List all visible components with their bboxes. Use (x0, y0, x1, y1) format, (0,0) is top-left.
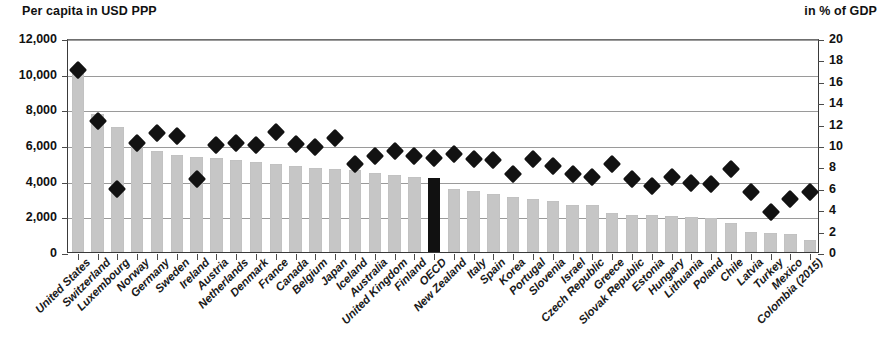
right-axis-tick (818, 254, 824, 255)
bar (527, 199, 539, 252)
left-axis-tick-label: 0 (50, 247, 57, 260)
right-axis-tick (818, 104, 824, 105)
right-axis-tick-label: 18 (829, 54, 843, 67)
left-axis-tick (62, 254, 68, 255)
right-axis-tick-label: 14 (829, 97, 843, 110)
left-axis-caption: Per capita in USD PPP (22, 4, 157, 18)
bar (210, 158, 222, 252)
bar (428, 178, 440, 252)
bar (250, 162, 262, 252)
right-axis-tick (818, 147, 824, 148)
right-axis-tick (818, 61, 824, 62)
left-axis-tick-label: 2,000 (26, 211, 57, 224)
category-labels: United StatesSwitzerlandLuxembourgNorway… (67, 256, 819, 357)
left-axis-tick-label: 12,000 (19, 33, 57, 46)
bar (566, 205, 578, 252)
bar (547, 201, 559, 252)
right-axis-tick-label: 10 (829, 140, 843, 153)
right-axis-tick (818, 211, 824, 212)
bar (467, 191, 479, 252)
bar (171, 155, 183, 252)
right-axis-tick (818, 40, 824, 41)
bar (408, 177, 420, 252)
bar (309, 168, 321, 252)
bar (586, 205, 598, 252)
bar (448, 189, 460, 252)
right-axis-tick-label: 4 (829, 204, 836, 217)
bar (626, 215, 638, 252)
right-axis-tick (818, 233, 824, 234)
left-axis-tick-label: 4,000 (26, 176, 57, 189)
bar-series (68, 40, 818, 252)
plot-area: 12,00010,0008,0006,0004,0002,0000 201816… (67, 39, 819, 253)
bar (487, 194, 499, 252)
left-axis-tick-label: 6,000 (26, 140, 57, 153)
right-axis-tick-label: 12 (829, 119, 843, 132)
right-axis-tick-label: 0 (829, 247, 836, 260)
bar (507, 197, 519, 252)
right-axis-tick-label: 20 (829, 33, 843, 46)
bar (764, 233, 776, 252)
bar (705, 218, 717, 252)
right-axis-tick (818, 190, 824, 191)
bar (329, 169, 341, 252)
bar (230, 160, 242, 252)
bar (369, 173, 381, 252)
right-axis-tick-label: 8 (829, 161, 836, 174)
bar (388, 175, 400, 252)
right-axis-tick-label: 16 (829, 76, 843, 89)
chart-root: Per capita in USD PPP in % of GDP 12,000… (0, 0, 889, 357)
bar (289, 166, 301, 252)
bar (606, 213, 618, 252)
bar (804, 240, 816, 252)
right-axis-caption: in % of GDP (804, 4, 877, 18)
bar (646, 215, 658, 252)
bar (665, 216, 677, 252)
bar (270, 164, 282, 252)
left-axis-tick-label: 10,000 (19, 69, 57, 82)
right-axis-tick (818, 126, 824, 127)
bar (784, 234, 796, 252)
right-axis-tick-label: 2 (829, 226, 836, 239)
bar (349, 170, 361, 252)
bar (151, 151, 163, 252)
bar (91, 114, 103, 252)
right-axis-tick-label: 6 (829, 183, 836, 196)
bar (725, 223, 737, 252)
bar (131, 141, 143, 252)
right-axis-tick (818, 168, 824, 169)
bar (685, 217, 697, 252)
right-axis-tick (818, 83, 824, 84)
bar (745, 232, 757, 252)
bar (72, 70, 84, 252)
left-axis-tick-label: 8,000 (26, 104, 57, 117)
